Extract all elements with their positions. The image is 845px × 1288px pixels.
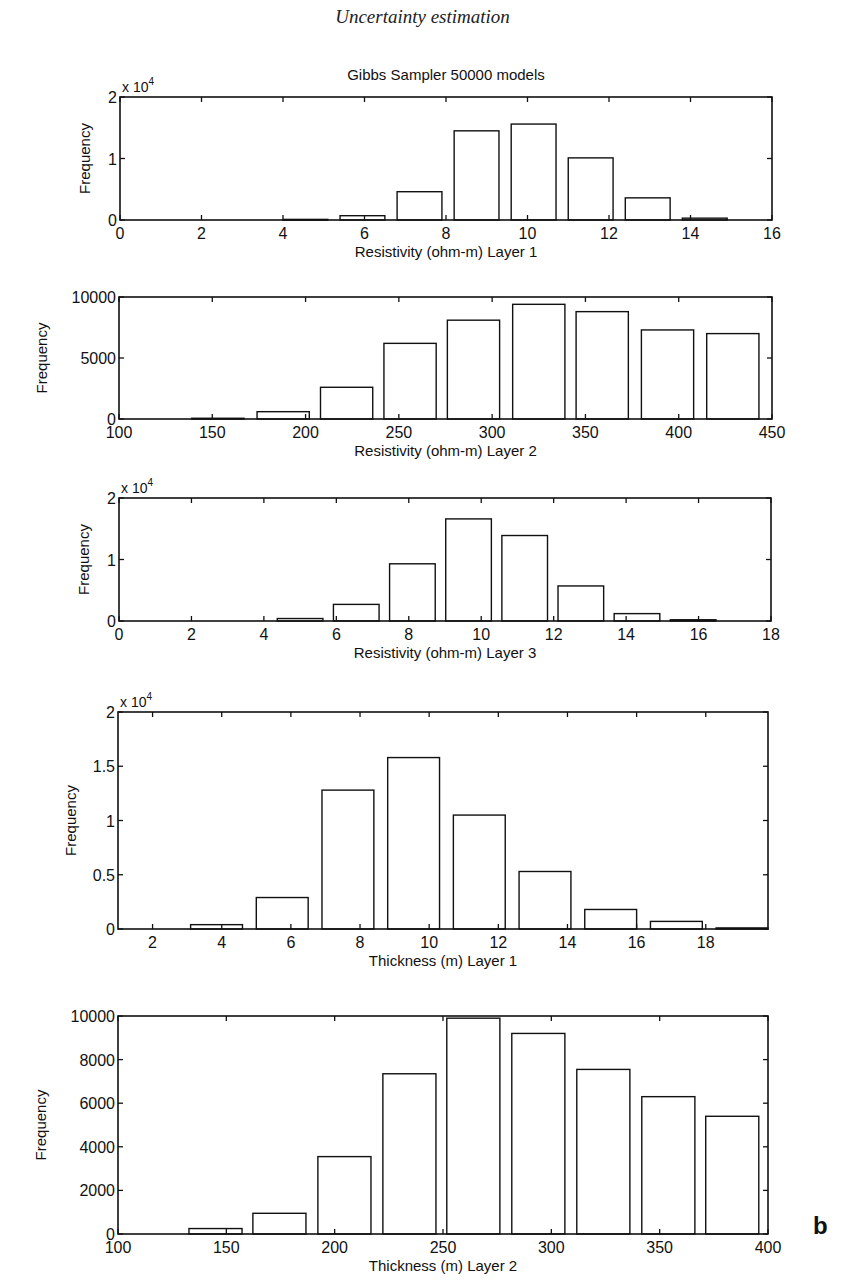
y-tick-label: 6000 [79,1095,115,1112]
panel-letter: b [813,1212,828,1240]
y-tick-label: 0 [106,1226,115,1243]
histogram-bar [512,1033,565,1234]
chart-4: 1001502002503003504000200040006000800010… [0,0,845,1288]
histogram-bar [383,1074,436,1234]
histogram-bar [642,1097,695,1234]
histogram-bar [189,1229,242,1234]
y-tick-label: 2000 [79,1182,115,1199]
x-tick-label: 200 [321,1239,348,1256]
y-tick-label: 4000 [79,1139,115,1156]
x-axis-label: Thickness (m) Layer 2 [369,1257,517,1274]
y-tick-label: 10000 [71,1008,116,1025]
x-tick-label: 150 [213,1239,240,1256]
x-tick-label: 350 [646,1239,673,1256]
histogram-bar [253,1213,306,1234]
histogram-bar [447,1018,500,1234]
histogram-bar [706,1116,759,1234]
x-tick-label: 250 [430,1239,457,1256]
x-tick-label: 400 [755,1239,782,1256]
x-tick-label: 300 [538,1239,565,1256]
y-tick-label: 8000 [79,1052,115,1069]
bars [189,1018,759,1234]
histogram-bar [318,1157,371,1234]
y-axis-label: Frequency [32,1089,49,1160]
histogram-bar [577,1069,630,1234]
